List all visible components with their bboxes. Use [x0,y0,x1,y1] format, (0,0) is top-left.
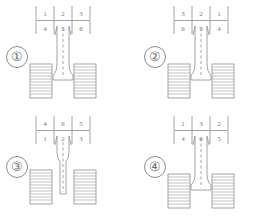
grid-cell-r2c1: 6 [181,25,185,33]
grid-cell-r2c2: 6 [199,135,203,143]
diagram-4: 1 3 2 4 6 5 [166,112,274,218]
grid-cell-r2c2: 2 [61,135,65,143]
grid-cell-r2c1: 4 [181,135,185,143]
panel-label-2: ② [144,46,166,68]
panel-2: ② [138,0,275,110]
grid-cell-r1c2: 3 [199,120,203,128]
panel-4: ④ [138,110,275,220]
diagram-1: 1 2 3 4 5 6 [28,2,136,108]
panel-label-1: ① [6,46,28,68]
grid-cell-r1c2: 2 [199,10,203,18]
grid-cell-r1c1: 1 [43,10,47,18]
grid-cell-r2c3: 4 [217,25,221,33]
diagram-2: 3 2 1 6 5 4 [166,2,274,108]
grid-cell-r2c2: 5 [61,25,65,33]
grid-cell-r2c2: 5 [199,25,203,33]
grid-cell-r1c3: 1 [217,10,221,18]
grid-cell-r1c3: 5 [79,120,83,128]
grid-cell-r1c2: 6 [61,120,65,128]
panel-1: ① [0,0,137,110]
grid-cell-r1c1: 1 [181,120,185,128]
panel-label-4: ④ [144,156,166,178]
panel-label-3: ③ [6,156,28,178]
grid-cell-r2c3: 6 [79,25,83,33]
grid-cell-r1c1: 4 [43,120,47,128]
grid-cell-r1c2: 2 [61,10,65,18]
grid-cell-r1c3: 3 [79,10,83,18]
grid-cell-r2c3: 5 [217,135,221,143]
diagram-3: 4 6 5 1 2 3 [28,112,136,218]
grid-cell-r2c3: 3 [79,135,83,143]
grid-cell-r1c3: 2 [217,120,221,128]
grid-cell-r2c1: 1 [43,135,47,143]
grid-cell-r2c1: 4 [43,25,47,33]
panel-3: ③ [0,110,137,220]
grid-cell-r1c1: 3 [181,10,185,18]
figure-canvas: ① [0,0,275,221]
